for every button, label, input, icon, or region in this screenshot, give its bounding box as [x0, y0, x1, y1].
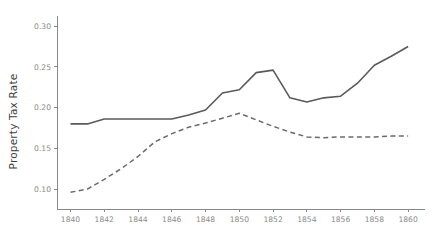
- y-tick-label: 0.10: [34, 185, 51, 194]
- x-tick-label: 1846: [162, 215, 181, 224]
- x-tick-label: 1840: [61, 215, 80, 224]
- y-axis-ticks: 0.100.150.200.250.30: [34, 22, 57, 194]
- x-tick-label: 1860: [398, 215, 417, 224]
- x-tick-label: 1842: [95, 215, 114, 224]
- axes-group: [57, 16, 425, 209]
- y-tick-label: 0.15: [34, 144, 51, 153]
- y-tick-label: 0.25: [34, 63, 51, 72]
- x-tick-label: 1856: [331, 215, 350, 224]
- x-axis-ticks: 1840184218441846184818501852185418561858…: [61, 209, 418, 224]
- series-line-dashed-series: [71, 113, 409, 192]
- y-tick-label: 0.30: [34, 22, 51, 31]
- x-tick-label: 1844: [128, 215, 147, 224]
- x-tick-label: 1850: [230, 215, 249, 224]
- x-tick-label: 1858: [365, 215, 384, 224]
- x-tick-label: 1852: [263, 215, 282, 224]
- data-series-group: [71, 47, 409, 193]
- line-chart-plot: 0.100.150.200.250.30 1840184218441846184…: [0, 0, 443, 243]
- series-line-solid-series: [71, 47, 409, 124]
- y-tick-label: 0.20: [34, 103, 51, 112]
- x-tick-label: 1854: [297, 215, 316, 224]
- chart-container: Property Tax Rate 0.100.150.200.250.30 1…: [0, 0, 443, 243]
- x-tick-label: 1848: [196, 215, 215, 224]
